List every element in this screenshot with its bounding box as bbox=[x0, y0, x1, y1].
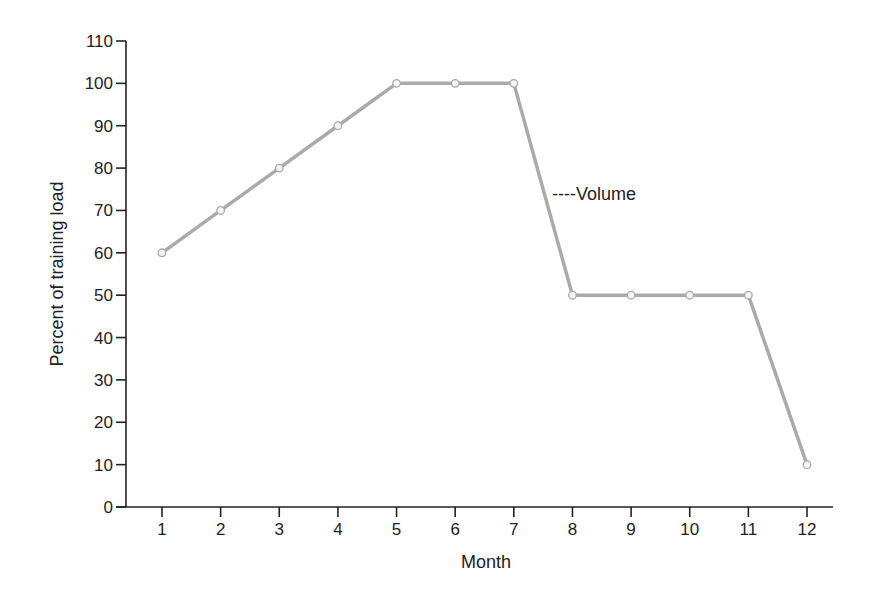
x-axis: 123456789101112 bbox=[116, 507, 833, 539]
data-point-marker bbox=[158, 249, 166, 257]
data-point-marker bbox=[803, 461, 811, 469]
y-tick-label: 70 bbox=[94, 201, 113, 220]
x-tick-label: 6 bbox=[450, 520, 459, 539]
x-tick-label: 5 bbox=[392, 520, 401, 539]
y-tick-label: 110 bbox=[86, 32, 113, 51]
volume-series bbox=[158, 80, 811, 469]
x-tick-label: 12 bbox=[798, 520, 817, 539]
y-tick-label: 20 bbox=[94, 413, 113, 432]
x-tick-label: 3 bbox=[275, 520, 284, 539]
data-point-marker bbox=[275, 164, 283, 172]
y-tick-label: 40 bbox=[94, 329, 113, 348]
x-axis-title: Month bbox=[461, 552, 511, 572]
x-tick-label: 4 bbox=[333, 520, 342, 539]
data-point-marker bbox=[569, 291, 577, 299]
y-tick-label: 80 bbox=[94, 159, 113, 178]
y-tick-label: 0 bbox=[104, 498, 113, 517]
x-tick-label: 9 bbox=[626, 520, 635, 539]
line-chart: 0102030405060708090100110 12345678910111… bbox=[0, 0, 869, 597]
x-tick-label: 11 bbox=[740, 520, 758, 539]
data-point-marker bbox=[334, 122, 342, 130]
data-point-marker bbox=[217, 207, 225, 215]
y-tick-label: 100 bbox=[85, 74, 113, 93]
data-point-marker bbox=[627, 291, 635, 299]
y-tick-label: 10 bbox=[94, 456, 113, 475]
series-line bbox=[162, 83, 807, 464]
y-axis-title: Percent of training load bbox=[47, 181, 67, 366]
y-tick-label: 60 bbox=[94, 244, 113, 263]
x-tick-label: 7 bbox=[509, 520, 518, 539]
x-tick-label: 1 bbox=[157, 520, 166, 539]
y-tick-label: 90 bbox=[94, 117, 113, 136]
y-axis: 0102030405060708090100110 bbox=[85, 32, 126, 517]
legend-volume: ----Volume bbox=[552, 184, 636, 204]
data-point-marker bbox=[451, 80, 459, 88]
x-tick-label: 10 bbox=[680, 520, 699, 539]
data-point-marker bbox=[510, 80, 518, 88]
data-point-marker bbox=[745, 291, 753, 299]
x-tick-label: 8 bbox=[568, 520, 577, 539]
data-point-marker bbox=[686, 291, 694, 299]
x-tick-label: 2 bbox=[216, 520, 225, 539]
y-tick-label: 30 bbox=[94, 371, 113, 390]
data-point-marker bbox=[393, 80, 401, 88]
y-tick-label: 50 bbox=[94, 286, 113, 305]
